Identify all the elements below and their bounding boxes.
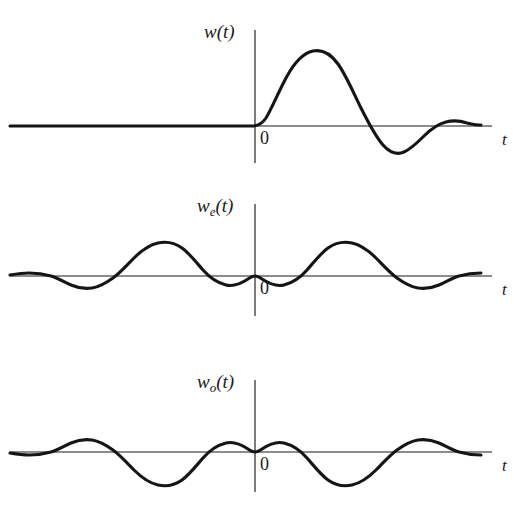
plot-we-canvas	[0, 176, 525, 352]
plot-w-ylabel-base: w	[204, 21, 217, 42]
plot-wo-origin-label: 0	[260, 455, 269, 473]
plot-we-ylabel-suffix: (t)	[215, 195, 233, 216]
plot-w-ylabel-suffix: (t)	[217, 21, 235, 42]
plot-w-origin-label: 0	[260, 129, 269, 147]
waveform-curve	[10, 51, 481, 154]
plot-we-xlabel: t	[502, 281, 507, 298]
waveform-curve	[10, 242, 481, 288]
plot-wo-ylabel-base: w	[197, 371, 210, 392]
plot-wo-xlabel: t	[502, 457, 507, 474]
plot-w-ylabel: w(t)	[204, 22, 235, 44]
plot-we-origin-label: 0	[260, 279, 269, 297]
plot-w-xlabel: t	[502, 131, 507, 148]
signal-decomposition-figure: w(t) 0 t we(t) 0 t wo(t) 0 t	[0, 0, 525, 528]
plot-wo: wo(t) 0 t	[0, 352, 525, 528]
plot-we: we(t) 0 t	[0, 176, 525, 352]
plot-we-ylabel: we(t)	[197, 196, 233, 218]
plot-w-canvas	[0, 0, 525, 176]
plot-we-ylabel-base: w	[197, 195, 210, 216]
plot-w: w(t) 0 t	[0, 0, 525, 176]
waveform-curve	[10, 440, 481, 486]
plot-wo-ylabel-suffix: (t)	[216, 371, 234, 392]
plot-wo-canvas	[0, 352, 525, 528]
plot-wo-ylabel: wo(t)	[197, 372, 234, 394]
